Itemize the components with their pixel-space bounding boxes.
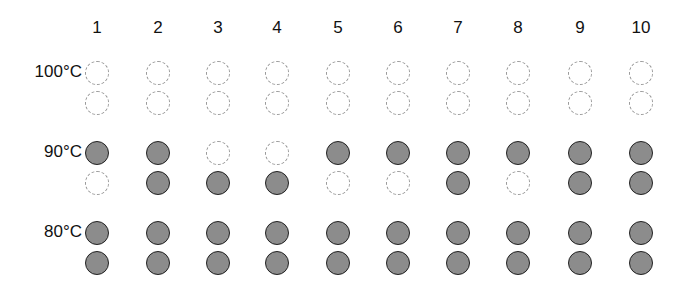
empty-circle-icon [568, 91, 592, 115]
column-label: 6 [378, 18, 418, 38]
column-label: 10 [621, 18, 661, 38]
empty-circle-icon [446, 61, 470, 85]
filled-circle-icon [265, 251, 289, 275]
empty-circle-icon [146, 61, 170, 85]
empty-circle-icon [386, 91, 410, 115]
filled-circle-icon [146, 221, 170, 245]
filled-circle-icon [629, 251, 653, 275]
empty-circle-icon [206, 141, 230, 165]
filled-circle-icon [146, 171, 170, 195]
filled-circle-icon [446, 221, 470, 245]
empty-circle-icon [506, 171, 530, 195]
column-label: 7 [438, 18, 478, 38]
column-label: 1 [77, 18, 117, 38]
empty-circle-icon [265, 61, 289, 85]
empty-circle-icon [326, 61, 350, 85]
filled-circle-icon [629, 171, 653, 195]
filled-circle-icon [386, 141, 410, 165]
filled-circle-icon [326, 221, 350, 245]
filled-circle-icon [568, 141, 592, 165]
filled-circle-icon [206, 221, 230, 245]
empty-circle-icon [85, 171, 109, 195]
filled-circle-icon [629, 141, 653, 165]
empty-circle-icon [85, 91, 109, 115]
empty-circle-icon [506, 91, 530, 115]
filled-circle-icon [506, 221, 530, 245]
filled-circle-icon [446, 171, 470, 195]
filled-circle-icon [629, 221, 653, 245]
filled-circle-icon [386, 221, 410, 245]
filled-circle-icon [85, 221, 109, 245]
empty-circle-icon [446, 91, 470, 115]
filled-circle-icon [446, 141, 470, 165]
empty-circle-icon [265, 141, 289, 165]
filled-circle-icon [85, 141, 109, 165]
filled-circle-icon [326, 141, 350, 165]
filled-circle-icon [568, 251, 592, 275]
filled-circle-icon [146, 251, 170, 275]
filled-circle-icon [326, 251, 350, 275]
column-label: 3 [198, 18, 238, 38]
filled-circle-icon [506, 141, 530, 165]
filled-circle-icon [206, 171, 230, 195]
filled-circle-icon [146, 141, 170, 165]
column-label: 5 [318, 18, 358, 38]
empty-circle-icon [206, 91, 230, 115]
filled-circle-icon [85, 251, 109, 275]
empty-circle-icon [265, 91, 289, 115]
filled-circle-icon [568, 221, 592, 245]
filled-circle-icon [568, 171, 592, 195]
empty-circle-icon [386, 61, 410, 85]
filled-circle-icon [265, 221, 289, 245]
empty-circle-icon [629, 61, 653, 85]
temperature-label: 100°C [0, 62, 82, 82]
empty-circle-icon [326, 171, 350, 195]
empty-circle-icon [206, 61, 230, 85]
temperature-label: 80°C [0, 222, 82, 242]
filled-circle-icon [446, 251, 470, 275]
empty-circle-icon [629, 91, 653, 115]
filled-circle-icon [506, 251, 530, 275]
column-label: 8 [498, 18, 538, 38]
empty-circle-icon [386, 171, 410, 195]
empty-circle-icon [85, 61, 109, 85]
temperature-label: 90°C [0, 142, 82, 162]
empty-circle-icon [568, 61, 592, 85]
empty-circle-icon [506, 61, 530, 85]
empty-circle-icon [146, 91, 170, 115]
filled-circle-icon [265, 171, 289, 195]
filled-circle-icon [206, 251, 230, 275]
column-label: 2 [138, 18, 178, 38]
filled-circle-icon [386, 251, 410, 275]
column-label: 4 [257, 18, 297, 38]
empty-circle-icon [326, 91, 350, 115]
column-label: 9 [560, 18, 600, 38]
